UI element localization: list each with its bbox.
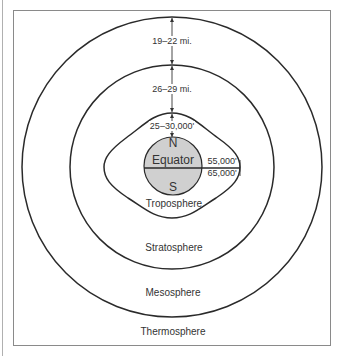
equator-height-top-label: 55,000' bbox=[207, 156, 236, 166]
equator-label: Equator bbox=[152, 153, 194, 167]
south-pole-label: S bbox=[169, 180, 177, 194]
troposphere-pole-height-label: 25–30,000' bbox=[149, 121, 195, 131]
mesosphere-thickness-label: 19–22 mi. bbox=[150, 36, 194, 46]
atmosphere-diagram bbox=[0, 0, 341, 356]
equator-height-bottom-label: 65,000' bbox=[207, 168, 236, 178]
troposphere-label: Troposphere bbox=[146, 198, 202, 209]
north-pole-label: N bbox=[169, 136, 178, 150]
stratosphere-label: Stratosphere bbox=[145, 242, 202, 253]
thermosphere-label: Thermosphere bbox=[140, 326, 205, 337]
stratosphere-thickness-label: 26–29 mi. bbox=[150, 84, 194, 94]
mesosphere-label: Mesosphere bbox=[145, 287, 200, 298]
